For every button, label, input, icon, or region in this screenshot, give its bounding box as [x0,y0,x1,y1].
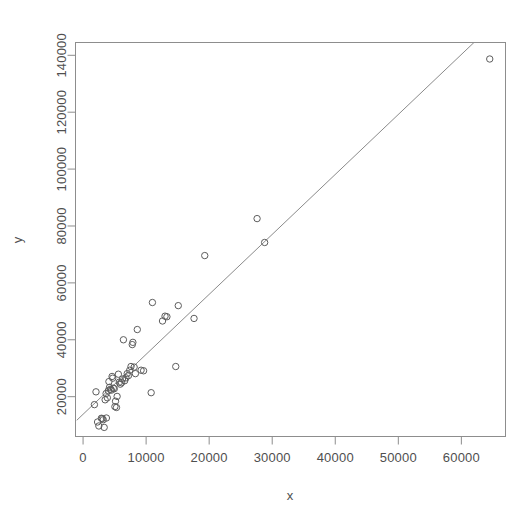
x-tick-label: 20000 [191,450,228,465]
y-tick-label: 140000 [54,33,69,78]
x-tick-label: 50000 [380,450,417,465]
x-tick-label: 60000 [443,450,480,465]
y-tick-label: 80000 [54,207,69,244]
x-axis-title: x [287,488,294,503]
y-tick-label: 20000 [54,378,69,415]
y-axis-title: y [10,236,25,243]
x-tick-label: 40000 [317,450,354,465]
y-tick-label: 120000 [54,90,69,135]
x-tick-label: 0 [79,450,86,465]
x-tick-label: 30000 [254,450,291,465]
figure-background [0,0,529,522]
scatter-plot-figure: 20000400006000080000100000120000140000 0… [0,0,529,522]
y-tick-label: 60000 [54,264,69,301]
y-tick-label: 40000 [54,321,69,358]
y-tick-label: 100000 [54,147,69,192]
plot-canvas: 20000400006000080000100000120000140000 0… [0,0,529,522]
x-tick-label: 10000 [128,450,165,465]
y-axis-tick-labels: 20000400006000080000100000120000140000 [54,33,69,415]
